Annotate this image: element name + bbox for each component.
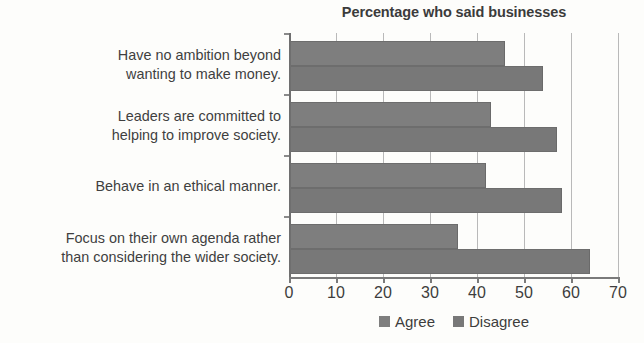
legend-item-disagree[interactable]: Disagree [453,313,529,330]
y-tick-0 [284,33,289,35]
y-tick-2 [284,155,289,157]
bar-agree-1 [289,102,491,127]
category-label-3: Focus on their own agenda ratherthan con… [0,229,281,267]
x-tick-label-10: 10 [316,284,356,302]
x-tick-label-50: 50 [504,284,544,302]
x-tick-20 [383,277,385,283]
category-label-2: Behave in an ethical manner. [0,177,281,196]
bar-agree-0 [289,41,505,66]
chart-title: Percentage who said businesses [289,4,619,20]
bar-disagree-1 [289,127,557,152]
chart-legend: AgreeDisagree [289,313,619,330]
category-label-line: Behave in an ethical manner. [0,177,281,196]
bar-agree-3 [289,224,458,249]
category-label-line: than considering the wider society. [0,248,281,267]
y-tick-3 [284,216,289,218]
x-tick-70 [618,277,620,283]
legend-swatch-icon [379,316,390,327]
legend-label: Agree [395,313,435,330]
bar-chart: Percentage who said businesses Have no a… [0,0,644,343]
category-label-line: Leaders are committed to [0,107,281,126]
bar-disagree-2 [289,188,562,213]
x-tick-label-0: 0 [269,284,309,302]
x-tick-30 [430,277,432,283]
category-label-line: Focus on their own agenda rather [0,229,281,248]
x-tick-50 [524,277,526,283]
bar-disagree-3 [289,249,590,274]
gridline-60 [571,33,572,277]
category-label-1: Leaders are committed tohelping to impro… [0,107,281,145]
category-label-0: Have no ambition beyondwanting to make m… [0,46,281,84]
x-tick-label-40: 40 [457,284,497,302]
y-axis-line [289,33,291,277]
y-tick-1 [284,94,289,96]
x-tick-label-20: 20 [363,284,403,302]
x-tick-10 [336,277,338,283]
x-tick-label-30: 30 [410,284,450,302]
x-tick-label-60: 60 [551,284,591,302]
bar-agree-2 [289,163,486,188]
category-label-line: wanting to make money. [0,65,281,84]
category-label-line: Have no ambition beyond [0,46,281,65]
x-tick-label-70: 70 [598,284,638,302]
plot-area [289,33,618,277]
legend-item-agree[interactable]: Agree [379,313,435,330]
x-tick-40 [477,277,479,283]
legend-swatch-icon [453,316,464,327]
bar-disagree-0 [289,66,543,91]
x-tick-0 [289,277,291,283]
x-tick-60 [571,277,573,283]
x-axis-line [289,277,619,279]
gridline-70 [618,33,619,277]
category-label-line: helping to improve society. [0,126,281,145]
legend-label: Disagree [469,313,529,330]
